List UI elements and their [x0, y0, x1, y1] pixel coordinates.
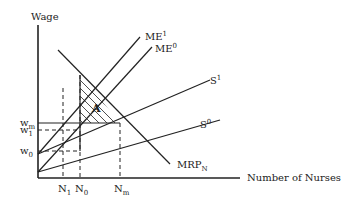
y-axis-label: Wage [31, 11, 59, 22]
s0-label: S0 [200, 118, 211, 130]
n0-label: N0 [75, 183, 88, 197]
w0-label: w0 [20, 145, 33, 159]
me0-label: ME0 [155, 42, 177, 54]
nm-label: Nm [114, 183, 130, 197]
x-axis-label: Number of Nurses [247, 172, 341, 183]
me1-curve [38, 37, 140, 154]
me1-label: ME1 [145, 30, 167, 42]
n1-label: N1 [58, 183, 71, 197]
s1-label: S1 [210, 74, 221, 86]
me0-curve [38, 47, 152, 172]
mrp-label: MRPN [177, 159, 208, 173]
labor-market-diagram: Wage Number of Nurses A ME1 ME0 S1 S0 MR… [0, 0, 348, 203]
